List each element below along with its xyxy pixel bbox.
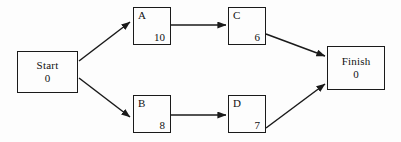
node-finish-label: Finish — [342, 55, 371, 68]
node-b-label: B — [138, 97, 145, 109]
node-c-label: C — [233, 9, 240, 21]
node-start-value: 0 — [45, 72, 51, 85]
edge-c-to-finish — [266, 34, 325, 56]
node-finish[interactable]: Finish 0 — [327, 46, 385, 90]
edge-start-to-b — [79, 78, 130, 117]
node-start-label: Start — [37, 59, 59, 72]
node-a[interactable]: A 10 — [133, 7, 171, 45]
node-d-value: 7 — [255, 119, 261, 131]
edge-start-to-a — [79, 22, 130, 61]
node-a-label: A — [138, 9, 146, 21]
node-d[interactable]: D 7 — [228, 95, 266, 133]
edge-d-to-finish — [266, 84, 325, 128]
node-finish-value: 0 — [353, 68, 359, 81]
activity-network-diagram: Start 0 A 10 B 8 C 6 D 7 Finish 0 — [0, 0, 401, 142]
node-c-value: 6 — [255, 31, 261, 43]
node-b[interactable]: B 8 — [133, 95, 171, 133]
node-start[interactable]: Start 0 — [17, 51, 78, 93]
node-b-value: 8 — [160, 119, 166, 131]
node-c[interactable]: C 6 — [228, 7, 266, 45]
node-d-label: D — [233, 97, 241, 109]
node-a-value: 10 — [154, 31, 165, 43]
